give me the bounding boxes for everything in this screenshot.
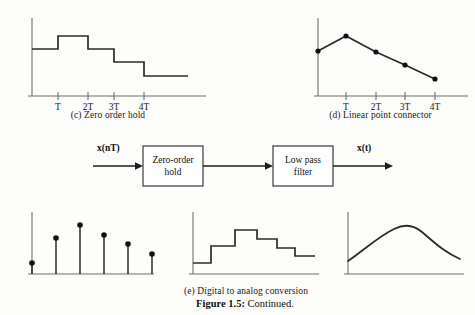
panel-d-caption: (d) Linear point connector	[288, 110, 473, 120]
linear-point-connector-chart: T 2T 3T 4T	[288, 10, 473, 110]
output-arrow	[333, 162, 393, 170]
zero-order-hold-chart: T 2T 3T 4T	[18, 10, 213, 110]
stems	[32, 225, 152, 274]
panel-filtered-output	[338, 208, 468, 286]
connector-trace	[318, 36, 435, 79]
input-arrow	[93, 162, 143, 170]
figure-caption: Figure 1.5: Continued.	[120, 298, 370, 309]
figure-caption-text: Continued.	[245, 298, 294, 309]
output-signal-label: x(t)	[357, 143, 371, 154]
block-1-line-1: Zero-order	[152, 155, 194, 165]
block-low-pass-filter: Low pass filter	[273, 146, 333, 186]
panel-e-caption: (e) Digital to analog conversion	[135, 286, 357, 296]
middle-arrow	[203, 162, 273, 170]
sample-markers	[315, 33, 437, 81]
panel-hold-output	[183, 208, 323, 286]
staircase-trace	[193, 230, 315, 263]
smooth-trace	[348, 226, 460, 261]
stem-chart	[18, 208, 158, 286]
input-signal-label: x(nT)	[97, 143, 120, 154]
panel-zero-order-hold: T 2T 3T 4T	[18, 10, 213, 110]
block-2-line-2: filter	[294, 167, 313, 177]
figure-container: T 2T 3T 4T (c) Zero order hold	[0, 0, 475, 315]
panel-linear-point-connector: T 2T 3T 4T	[288, 10, 473, 110]
panel-digital-samples	[18, 208, 158, 286]
panel-c-caption: (c) Zero order hold	[18, 110, 198, 120]
block-zero-order-hold: Zero-order hold	[143, 146, 203, 186]
block-diagram-svg: x(nT) Zero-order hold Low pass filter	[85, 138, 405, 194]
smooth-curve-chart	[338, 208, 468, 286]
block-2-line-1: Low pass	[285, 155, 321, 165]
stem-markers	[29, 222, 155, 266]
block-1-line-2: hold	[165, 167, 182, 177]
step-trace	[32, 36, 188, 76]
block-diagram: x(nT) Zero-order hold Low pass filter	[85, 138, 405, 194]
staircase-chart	[183, 208, 323, 286]
figure-caption-number: Figure 1.5:	[196, 298, 245, 309]
